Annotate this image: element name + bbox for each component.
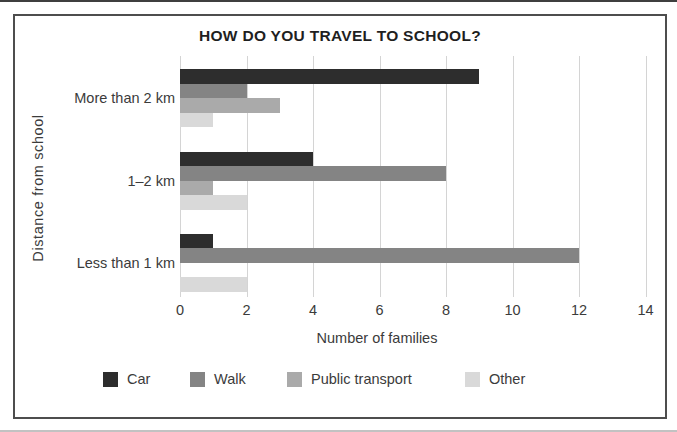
category-label: 1–2 km [127,173,175,189]
y-axis-title: Distance from school [30,114,46,261]
x-tick-label: 0 [176,302,184,318]
legend-swatch [465,372,480,387]
x-tick-label: 4 [309,302,317,318]
category-label: More than 2 km [74,90,175,106]
gridline [579,56,580,297]
bar-public-transport [180,181,213,196]
x-axis-title: Number of families [317,330,438,346]
bar-other [180,195,247,210]
legend-item-walk: Walk [190,371,246,387]
legend-label: Other [489,371,525,387]
legend-label: Public transport [311,371,412,387]
legend-item-public-transport: Public transport [287,371,412,387]
legend-swatch [287,372,302,387]
bar-walk [180,166,446,181]
legend-label: Walk [214,371,246,387]
bar-walk [180,248,579,263]
x-tick-label: 8 [442,302,450,318]
x-tick-label: 12 [571,302,587,318]
x-tick-label: 2 [242,302,250,318]
figure: HOW DO YOU TRAVEL TO SCHOOL? Distance fr… [0,0,677,432]
bar-public-transport [180,98,280,113]
legend-item-car: Car [103,371,150,387]
x-tick-label: 6 [375,302,383,318]
scan-artifact-top [0,0,677,2]
bar-car [180,69,479,84]
bar-car [180,152,313,167]
legend-swatch [103,372,118,387]
legend-item-other: Other [465,371,525,387]
legend-swatch [190,372,205,387]
bar-car [180,234,213,249]
category-label: Less than 1 km [77,255,175,271]
bar-other [180,277,247,292]
bar-other [180,113,213,128]
plot-area [180,56,646,297]
bar-walk [180,84,247,99]
x-tick-label: 14 [637,302,653,318]
x-tick-label: 10 [504,302,520,318]
legend-label: Car [127,371,150,387]
chart-title: HOW DO YOU TRAVEL TO SCHOOL? [13,27,667,45]
gridline [646,56,647,297]
